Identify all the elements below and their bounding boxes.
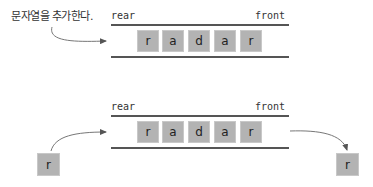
add-arrow-icon	[52, 27, 106, 41]
arrows	[0, 0, 373, 187]
enqueue-arrow-icon	[51, 132, 106, 151]
dequeue-arrow-icon	[290, 131, 347, 150]
